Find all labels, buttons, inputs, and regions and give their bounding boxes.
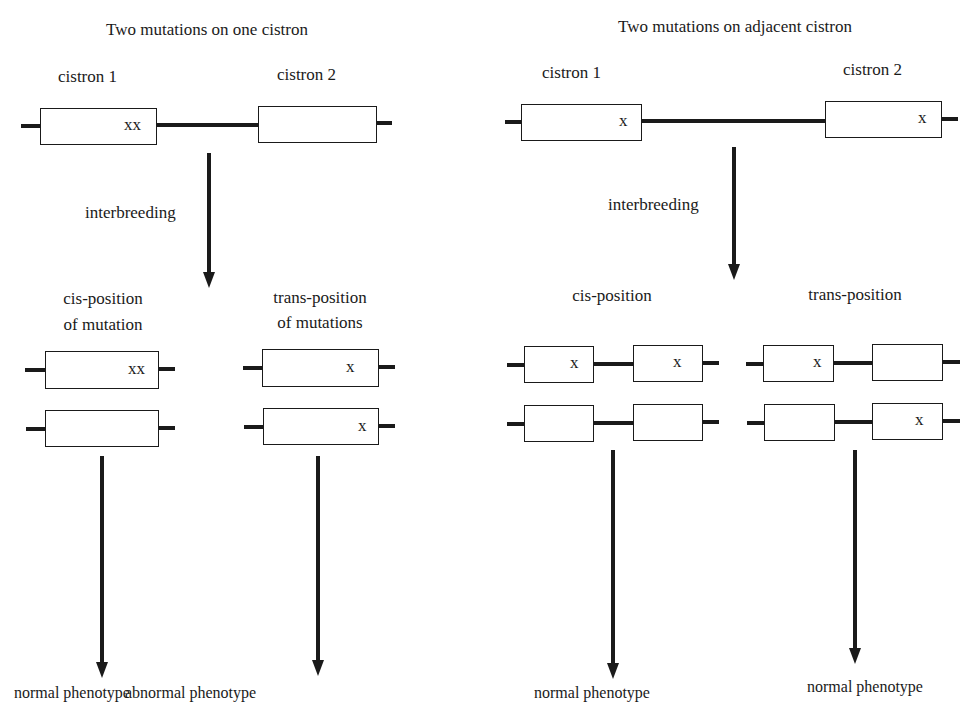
dna-strand bbox=[25, 368, 46, 372]
interbreeding-arrow-shaft bbox=[207, 153, 211, 275]
dna-strand bbox=[378, 424, 395, 428]
dna-strand bbox=[507, 422, 525, 426]
trans-result-arrow-shaft bbox=[853, 450, 857, 650]
dna-strand bbox=[158, 426, 175, 430]
dna-strand bbox=[26, 427, 46, 431]
cistron-1-box bbox=[763, 345, 834, 382]
left-interbreeding-label: interbreeding bbox=[85, 203, 176, 223]
dna-strand bbox=[702, 420, 719, 424]
dna-strand bbox=[156, 123, 259, 127]
left-cistron-1-label: cistron 1 bbox=[58, 67, 117, 87]
dna-strand bbox=[243, 366, 263, 370]
dna-strand bbox=[593, 362, 634, 366]
right-trans-result: normal phenotype bbox=[807, 677, 923, 697]
left-cis-label-line1: cis-position bbox=[63, 289, 142, 309]
dna-strand bbox=[702, 361, 719, 365]
dna-strand bbox=[244, 425, 264, 429]
dna-strand bbox=[21, 124, 41, 128]
right-trans-label: trans-position bbox=[808, 285, 902, 305]
dna-strand bbox=[505, 120, 522, 124]
right-cis-result: normal phenotype bbox=[534, 683, 650, 703]
cis-result-arrow-shaft bbox=[611, 450, 615, 665]
dna-strand bbox=[378, 365, 395, 369]
cistron-2-box bbox=[872, 344, 943, 381]
dna-strand bbox=[942, 419, 960, 423]
dna-strand bbox=[507, 363, 525, 367]
mutation-mark: xx bbox=[128, 360, 145, 378]
arrow-down-icon bbox=[728, 264, 740, 280]
cistron-2-box bbox=[633, 404, 703, 441]
mutation-mark: x bbox=[358, 417, 367, 435]
cistron-box bbox=[45, 410, 159, 447]
mutation-mark: xx bbox=[124, 116, 141, 134]
cistron-1-box bbox=[764, 404, 835, 441]
cis-result-arrow-shaft bbox=[100, 456, 104, 666]
right-panel-title: Two mutations on adjacent cistron bbox=[618, 17, 852, 37]
cistron-2-box bbox=[633, 345, 703, 382]
right-cistron-1-label: cistron 1 bbox=[542, 63, 601, 83]
mutation-mark: x bbox=[346, 358, 355, 376]
dna-strand bbox=[593, 421, 634, 425]
left-cis-label-line2: of mutation bbox=[64, 315, 143, 335]
trans-result-arrow-shaft bbox=[316, 456, 320, 664]
interbreeding-arrow-shaft bbox=[732, 147, 736, 266]
dna-strand bbox=[941, 117, 958, 121]
right-cistron-2-label: cistron 2 bbox=[843, 60, 902, 80]
left-trans-label-line1: trans-position bbox=[273, 288, 367, 308]
dna-strand bbox=[158, 367, 175, 371]
cistron-1-box bbox=[524, 405, 594, 442]
dna-strand bbox=[833, 361, 873, 365]
right-cis-label: cis-position bbox=[572, 286, 651, 306]
dna-strand bbox=[942, 360, 960, 364]
arrow-down-icon bbox=[312, 660, 324, 676]
left-cistron-2-label: cistron 2 bbox=[277, 65, 336, 85]
mutation-mark: x bbox=[918, 109, 927, 127]
arrow-down-icon bbox=[607, 663, 619, 679]
mutation-mark: x bbox=[570, 354, 579, 372]
dna-strand bbox=[746, 362, 764, 366]
dna-strand bbox=[834, 420, 874, 424]
left-trans-result: abnormal phenotype bbox=[125, 683, 256, 703]
mutation-mark: x bbox=[813, 353, 822, 371]
left-cis-result: normal phenotype bbox=[14, 683, 130, 703]
dna-strand bbox=[641, 119, 826, 123]
cistron-1-box bbox=[524, 346, 594, 383]
right-interbreeding-label: interbreeding bbox=[608, 195, 699, 215]
left-panel-title: Two mutations on one cistron bbox=[106, 20, 308, 40]
mutation-mark: x bbox=[619, 112, 628, 130]
left-trans-label-line2: of mutations bbox=[277, 313, 362, 333]
cistron-box bbox=[262, 349, 379, 387]
cistron-2-box bbox=[872, 403, 943, 440]
arrow-down-icon bbox=[203, 272, 215, 288]
arrow-down-icon bbox=[849, 648, 861, 664]
mutation-mark: x bbox=[915, 411, 924, 429]
cistron-2-box bbox=[258, 106, 377, 143]
mutation-mark: x bbox=[673, 353, 682, 371]
dna-strand bbox=[376, 121, 392, 125]
arrow-down-icon bbox=[96, 662, 108, 678]
dna-strand bbox=[747, 421, 765, 425]
